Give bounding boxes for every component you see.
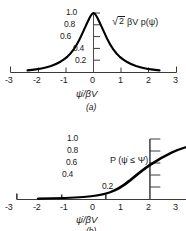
pdf-label-rest: βV p(ψ̇) (127, 17, 158, 27)
x-axis-title-b: ψ̇/βV (76, 215, 97, 225)
x-axis-title-a: ψ̇/βV (76, 89, 97, 99)
pdf-curve-label: √2βV p(ψ̇) (108, 16, 158, 27)
x-tick-label-a-0: 0 (90, 76, 95, 85)
cdf-curve-label: P (ψ̇ ≤ Ψ̇) (110, 156, 148, 165)
y-tick-label-a-1.0: 1.0 (66, 8, 77, 17)
y-tick-label-b-0.8: 0.8 (67, 146, 78, 155)
y-tick-label-a-0.6: 0.6 (60, 32, 71, 41)
y-tick-label-a-0.2: 0.2 (75, 56, 86, 65)
x-tick-label-b-2: 2 (146, 203, 151, 212)
x-tick-label-a-1: 1 (118, 76, 123, 85)
x-tick-label-b-1: 1 (118, 203, 123, 212)
chart-panel-a: 1.0 0.8 0.6 0.4 0.2 -3 -2 -1 0 1 2 3 √2β… (0, 0, 186, 115)
x-tick-label-b--2: -2 (33, 203, 41, 212)
x-tick-label-a-3: 3 (173, 76, 178, 85)
x-tick-label-a--1: -1 (60, 76, 68, 85)
panel-tag-a: (a) (86, 103, 96, 112)
panel-tag-b: (b) (86, 227, 96, 231)
y-tick-label-a-0.4: 0.4 (73, 44, 84, 53)
y-tick-label-a-0.8: 0.8 (64, 20, 75, 29)
y-tick-label-b-0.2: 0.2 (102, 182, 113, 191)
x-tick-label-a--2: -2 (33, 76, 41, 85)
chart-panel-b: 1.0 0.8 0.6 0.4 0.2 -3 -2 -1 0 1 2 3 P (… (0, 115, 186, 231)
x-tick-label-b-0: 0 (90, 203, 95, 212)
x-tick-label-b--3: -3 (5, 203, 13, 212)
x-tick-label-a--3: -3 (5, 76, 13, 85)
x-tick-label-b-3: 3 (173, 203, 178, 212)
figure-container: 1.0 0.8 0.6 0.4 0.2 -3 -2 -1 0 1 2 3 √2β… (0, 0, 186, 231)
y-tick-label-b-0.4: 0.4 (62, 170, 73, 179)
y-tick-label-b-1.0: 1.0 (67, 134, 78, 143)
y-tick-label-b-0.6: 0.6 (66, 158, 77, 167)
x-tick-label-b--1: -1 (60, 203, 68, 212)
sqrt-group: √2 (108, 16, 125, 27)
x-tick-label-a-2: 2 (146, 76, 151, 85)
sqrt-radicand: 2 (118, 16, 125, 26)
